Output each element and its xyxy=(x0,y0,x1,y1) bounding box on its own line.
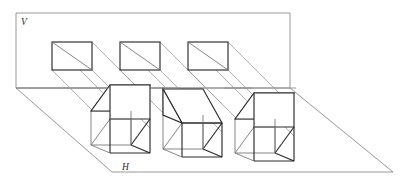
depth-edge xyxy=(131,145,150,153)
depth-edge xyxy=(91,119,110,145)
vertical-plane-label: V xyxy=(21,17,28,27)
inner-edge xyxy=(91,145,110,153)
figure-canvas: V H xyxy=(0,0,405,186)
projections-on-vertical-plane xyxy=(52,42,228,70)
v-projection-rect-2 xyxy=(120,42,160,70)
inner-edge xyxy=(163,149,182,157)
depth-edge xyxy=(131,119,150,145)
depth-edge xyxy=(235,127,254,153)
horizontal-plane-label: H xyxy=(121,162,130,172)
solid-3-cube xyxy=(235,93,294,161)
solid-2-lower-edges xyxy=(182,123,222,157)
depth-edge xyxy=(203,123,222,149)
solid-3-front-face xyxy=(254,93,294,127)
depth-edge xyxy=(275,153,294,161)
solid-1-cube xyxy=(91,85,150,153)
geometry-diagram: V H xyxy=(0,0,405,186)
depth-edge xyxy=(203,149,222,157)
depth-edge xyxy=(275,127,294,153)
inner-edge xyxy=(235,153,254,161)
depth-edge xyxy=(163,123,182,149)
solid-1-front-face xyxy=(110,85,150,119)
projection-ray xyxy=(52,70,91,109)
solid-3-lower-edges xyxy=(254,127,294,161)
v-projection-rect-3 xyxy=(188,42,228,70)
solid-2-wedge xyxy=(163,89,222,157)
v-projection-rect-1 xyxy=(52,42,92,70)
solid-1-lower-edges xyxy=(110,119,150,153)
